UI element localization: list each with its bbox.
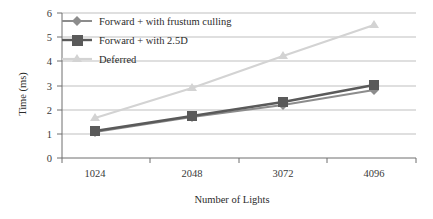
forward25d-marker-1024 bbox=[90, 126, 100, 136]
x-tick-label-3072: 3072 bbox=[273, 168, 294, 179]
line-chart: 6 5 4 3 2 1 0 1024 2048 3072 4096 Number… bbox=[0, 0, 433, 219]
y-axis-title: Time (ms) bbox=[17, 72, 29, 116]
chart-background bbox=[0, 0, 433, 219]
x-axis-title: Number of Lights bbox=[194, 194, 269, 205]
x-tick-label-4096: 4096 bbox=[364, 168, 385, 179]
forward25d-marker-2048 bbox=[187, 111, 197, 121]
legend-entry-forward-2-5d: Forward + with 2.5D bbox=[62, 35, 188, 46]
legend-label-frustum-culling: Forward + with frustum culling bbox=[99, 16, 232, 27]
x-tick-label-2048: 2048 bbox=[182, 168, 203, 179]
y-tick-label-0: 0 bbox=[47, 153, 52, 164]
x-tick-label-1024: 1024 bbox=[85, 168, 107, 179]
y-tick-label-5: 5 bbox=[47, 32, 52, 43]
y-tick-label-3: 3 bbox=[47, 81, 52, 92]
forward25d-marker-3072 bbox=[278, 97, 288, 107]
y-tick-label-1: 1 bbox=[47, 129, 52, 140]
y-tick-label-6: 6 bbox=[47, 8, 52, 19]
square-marker-icon bbox=[72, 35, 83, 46]
forward25d-marker-4096 bbox=[369, 80, 379, 90]
y-tick-label-4: 4 bbox=[47, 56, 53, 67]
y-tick-label-2: 2 bbox=[47, 105, 52, 116]
chart-figure: 6 5 4 3 2 1 0 1024 2048 3072 4096 Number… bbox=[0, 0, 433, 219]
legend-label-forward-2-5d: Forward + with 2.5D bbox=[99, 35, 188, 46]
legend-label-deferred: Deferred bbox=[99, 54, 137, 65]
